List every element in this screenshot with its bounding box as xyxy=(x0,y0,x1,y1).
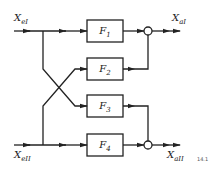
summing-junction-top xyxy=(144,27,152,35)
block-f3-label: F3 xyxy=(87,100,123,114)
block-f2-label: F2 xyxy=(87,63,123,77)
f2-output-line xyxy=(123,35,148,69)
input-label-bottom: XeII xyxy=(14,150,31,163)
f3-output-line xyxy=(123,106,148,141)
cross-line-to-f2 xyxy=(43,69,87,145)
summing-junction-bottom xyxy=(144,141,152,149)
input-label-top: XeI xyxy=(14,13,28,26)
block-f4-label: F4 xyxy=(87,139,123,153)
figure-tag: 14.1 xyxy=(197,156,208,162)
output-label-bottom: XaII xyxy=(167,150,184,163)
output-label-top: XaI xyxy=(172,13,186,26)
block-f1-label: F1 xyxy=(87,25,123,39)
